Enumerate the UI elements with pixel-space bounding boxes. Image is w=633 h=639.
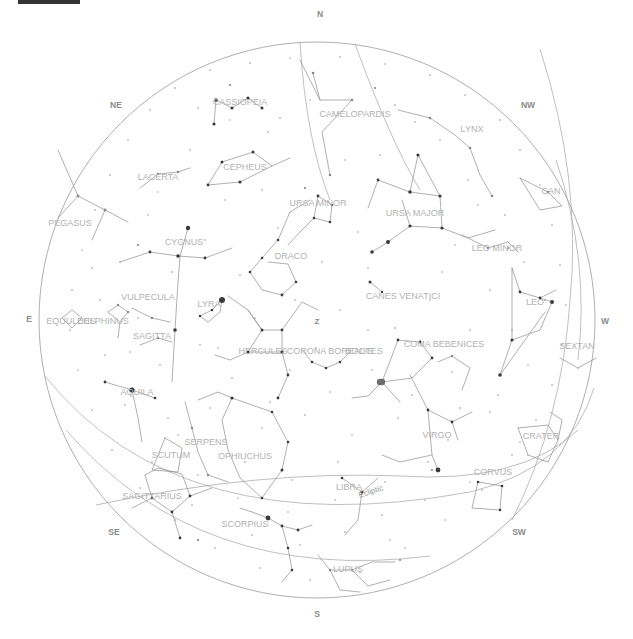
zenith-label: Z xyxy=(315,317,320,326)
constellation-label: SEXTAN xyxy=(559,341,594,351)
constellation-label: CEPHEUS xyxy=(223,162,267,172)
sky-chart-canvas[interactable]: Z Ecliptic N NE NW E W SE SW S CASSIOPEI… xyxy=(0,0,633,639)
constellation-label: CASSIOPEIA xyxy=(213,97,268,107)
constellation-label: VIRGO xyxy=(422,430,451,440)
constellation-label: SAGITTA xyxy=(133,331,171,341)
constellation-label: AQUILA xyxy=(120,387,153,397)
cardinal-se: SE xyxy=(108,527,120,537)
constellation-label: URSA MINOR xyxy=(289,198,347,208)
zenith-marker: Z xyxy=(315,317,320,326)
constellation-label: LEO MINOR xyxy=(472,243,523,253)
constellation-label: COMA BEBENICES xyxy=(404,339,485,349)
cardinal-nw: NW xyxy=(521,100,536,110)
constellation-label: DELPHINUS xyxy=(77,316,129,326)
cardinal-w: W xyxy=(601,316,610,326)
constellation-label: LIBRA xyxy=(336,482,362,492)
constellation-label: CAMELOPARDIS xyxy=(320,109,391,119)
constellation-label: CANES VENATICI xyxy=(366,291,440,301)
star-chart-app: Z Ecliptic N NE NW E W SE SW S CASSIOPEI… xyxy=(0,0,633,639)
constellation-labels: CASSIOPEIACAMELOPARDISLYNXCEPHEUSLACERTA… xyxy=(46,97,594,574)
constellation-label: LUPUS xyxy=(333,564,363,574)
constellation-label: LEO xyxy=(526,297,544,307)
cardinal-n: N xyxy=(317,9,323,19)
constellation-label: CAN xyxy=(541,186,560,196)
constellation-label: LYRA xyxy=(198,299,221,309)
constellation-label: SAGITTARIUS xyxy=(122,491,181,501)
constellation-label: CRATER xyxy=(523,431,560,441)
constellation-label: BOOTES xyxy=(345,346,383,356)
constellation-label: SERPENS xyxy=(184,437,227,447)
sky-chart-svg: Z Ecliptic N NE NW E W SE SW S CASSIOPEI… xyxy=(0,0,633,639)
constellation-label: LYNX xyxy=(461,124,484,134)
cardinal-e: E xyxy=(26,314,32,324)
cardinal-sw: SW xyxy=(512,527,527,537)
constellation-label: URSA MAJOR xyxy=(386,208,445,218)
constellation-label: PEGASUS xyxy=(48,218,92,228)
cardinal-labels: N NE NW E W SE SW S xyxy=(26,9,610,619)
constellation-label: SCORPIUS xyxy=(221,519,268,529)
constellation-label: SCUTUM xyxy=(152,450,191,460)
constellation-label: VULPECULA xyxy=(121,292,175,302)
constellation-figures xyxy=(58,60,596,592)
cardinal-ne: NE xyxy=(110,100,122,110)
constellation-label: OPHIUCHUS xyxy=(218,451,272,461)
constellation-label: DRACO xyxy=(275,251,308,261)
constellation-label: CORVUS xyxy=(474,467,512,477)
constellation-label: LACERTA xyxy=(138,172,179,182)
constellation-label: HERCULES xyxy=(238,346,287,356)
constellation-label: CYGNUS xyxy=(165,237,204,247)
cardinal-s: S xyxy=(314,609,320,619)
